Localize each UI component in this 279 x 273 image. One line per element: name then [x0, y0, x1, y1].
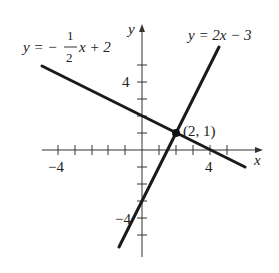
intersection-point: [172, 129, 180, 137]
tick-label-y-neg4: −4: [115, 211, 131, 227]
tick-label-y-4: 4: [122, 74, 130, 90]
y-axis-label: y: [126, 21, 135, 37]
tick-label-x-neg4: −4: [48, 159, 64, 175]
equation1-numerator: 1: [67, 28, 74, 43]
equation1-lhs: y = −: [21, 39, 57, 55]
tick-label-x-4: 4: [205, 159, 213, 175]
intersection-label: (2, 1): [183, 123, 216, 140]
line-y-neg-half-x-plus-2: [42, 66, 245, 167]
graph: y x −4 4 4 −4 (2, 1) y = − 1 2 x + 2 y =…: [0, 0, 279, 273]
equation-label-line2: y = 2x − 3: [186, 27, 252, 43]
equation1-denominator: 2: [66, 50, 73, 65]
x-axis-label: x: [253, 152, 261, 168]
equation-label-line1: y = − 1 2 x + 2: [21, 28, 111, 65]
y-axis-arrow-icon: [139, 24, 145, 32]
equation1-rhs: x + 2: [78, 39, 111, 55]
